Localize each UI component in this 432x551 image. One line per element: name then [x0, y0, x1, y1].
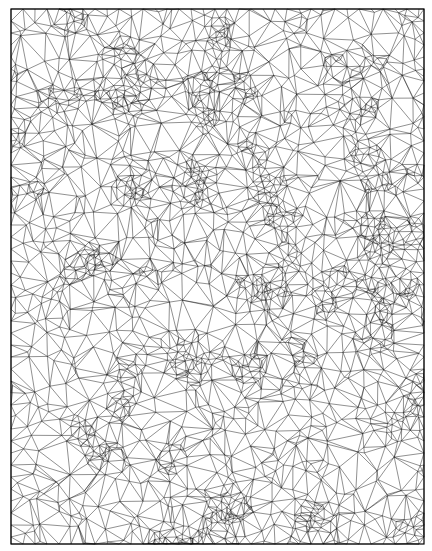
triangulation-mesh-figure: [0, 0, 432, 551]
mesh-svg: [0, 0, 432, 551]
